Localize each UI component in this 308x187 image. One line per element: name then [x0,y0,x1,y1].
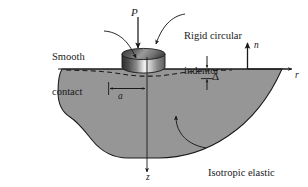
label-axis-n: n [254,40,259,51]
label-indentation-delta: Δ [212,70,219,82]
label-isotropic-halfspace: Isotropic elastic halfspace (μ,ν) [208,143,275,187]
label-contact-radius-a: a [118,91,123,102]
label-load-P: P [131,6,138,18]
label-rigid-indentor-line1: Rigid circular [184,30,242,42]
indentation-figure: Rigid circular indentor Smooth contact I… [0,0,308,187]
label-isotropic-halfspace-line1: Isotropic elastic [208,167,275,179]
label-rigid-indentor: Rigid circular indentor [184,6,242,100]
rigid-indentor [122,48,165,73]
label-axis-r: r [295,70,299,81]
label-smooth-contact-line1: Smooth [52,51,85,63]
label-smooth-contact-line2: contact [52,86,85,98]
label-axis-z: z [146,172,150,183]
label-smooth-contact: Smooth contact [52,27,85,121]
leader-rigid-indentor [156,14,185,44]
